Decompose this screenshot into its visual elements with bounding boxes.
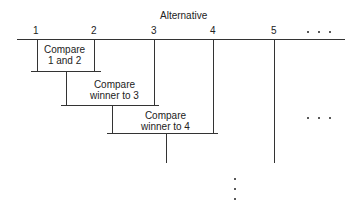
step-1-label: Compare 1 and 2 [44, 44, 85, 66]
step-3-result-stem [166, 133, 167, 163]
step-1-line2: 1 and 2 [44, 55, 85, 66]
step-3-stem [112, 105, 113, 133]
alternative-label-4: 4 [210, 25, 216, 36]
alt-1-line [37, 39, 38, 71]
step-3-label: Compare winner to 4 [141, 110, 190, 132]
alt-4-line [213, 39, 214, 133]
ellipsis-dot [329, 31, 331, 33]
step-2-line2: winner to 3 [90, 90, 139, 101]
right-ellipsis-dot [329, 117, 331, 119]
alternative-label-1: 1 [33, 25, 39, 36]
bottom-ellipsis-dot [234, 188, 236, 190]
step-2-line1: Compare [90, 79, 139, 90]
alt-3-line [154, 39, 155, 105]
right-ellipsis-dot [307, 117, 309, 119]
alternatives-axis-line [17, 39, 345, 40]
bottom-ellipsis-dot [234, 178, 236, 180]
step-3-line2: winner to 4 [141, 121, 190, 132]
alternative-label-3: 3 [151, 25, 157, 36]
alt-5-line [274, 39, 275, 163]
step-2-label: Compare winner to 3 [90, 79, 139, 101]
ellipsis-dot [318, 31, 320, 33]
alt-2-line [94, 39, 95, 71]
bottom-ellipsis-dot [234, 198, 236, 200]
alternative-label-2: 2 [91, 25, 97, 36]
step-1-line1: Compare [44, 44, 85, 55]
step-3-bar [107, 133, 218, 134]
ellipsis-dot [307, 31, 309, 33]
axis-title: Alternative [160, 10, 207, 21]
right-ellipsis-dot [318, 117, 320, 119]
alternative-label-5: 5 [271, 25, 277, 36]
step-2-stem [66, 71, 67, 105]
step-2-bar [61, 105, 159, 106]
step-3-line1: Compare [141, 110, 190, 121]
